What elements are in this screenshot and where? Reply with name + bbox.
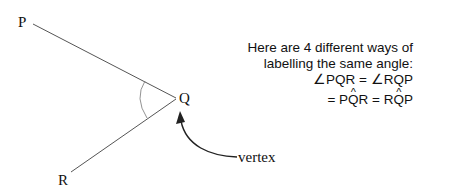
- note-line-4-suffix: P: [404, 92, 413, 107]
- vertex-label: vertex: [238, 149, 275, 166]
- note-line-4-mid: R = R: [359, 92, 394, 107]
- hat-q-2: Q: [393, 92, 404, 108]
- note-line-2: labelling the same angle:: [247, 56, 413, 72]
- point-label-q: Q: [179, 91, 190, 106]
- angle-arc: [140, 81, 147, 118]
- angle-diagram: P Q R vertex Here are 4 different ways o…: [0, 0, 450, 189]
- note-line-4-prefix: = P: [327, 92, 348, 107]
- angle-notation-note: Here are 4 different ways of labelling t…: [247, 40, 413, 108]
- vertex-arrow-curve: [181, 121, 237, 157]
- note-line-4: = PQR = RQP: [247, 92, 413, 108]
- point-label-p: P: [18, 15, 26, 30]
- hat-q-1: Q: [348, 92, 359, 108]
- ray-qp: [33, 24, 176, 98]
- note-line-1: Here are 4 different ways of: [247, 40, 413, 56]
- note-line-3: ∠PQR = ∠RQP: [247, 72, 413, 88]
- ray-qr: [71, 99, 176, 172]
- arrowhead-icon: [176, 111, 185, 124]
- point-label-r: R: [58, 173, 68, 188]
